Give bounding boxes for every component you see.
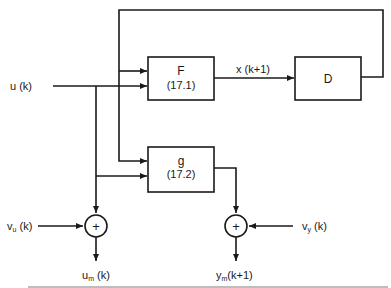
input-label: u (k) xyxy=(10,80,32,92)
sum-output-plus: + xyxy=(232,219,240,234)
block-F-title: F xyxy=(177,64,184,78)
input-noise-label: vu (k) xyxy=(7,220,32,233)
block-F-ref: (17.1) xyxy=(167,79,196,91)
output-noise-label: vy (k) xyxy=(302,220,327,234)
measured-output-label: ym(k+1) xyxy=(216,269,253,282)
sum-input-plus: + xyxy=(92,219,100,234)
measured-input-label: um (k) xyxy=(82,269,110,282)
state-label: x (k+1) xyxy=(236,63,270,75)
block-g-title: g xyxy=(178,154,185,168)
block-g-ref: (17.2) xyxy=(167,168,196,180)
block-D-title: D xyxy=(324,72,333,86)
g-output-line xyxy=(214,168,236,213)
block-diagram: u (k) F (17.1) x (k+1) D g (17.2) + vu (… xyxy=(0,0,391,288)
